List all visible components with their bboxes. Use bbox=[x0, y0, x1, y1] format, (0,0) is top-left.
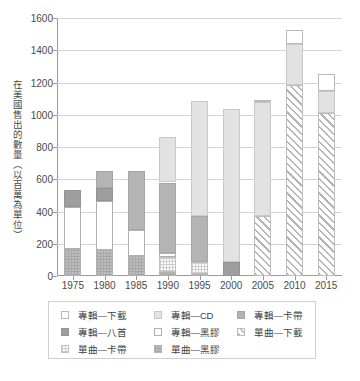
bar-1975 bbox=[64, 190, 81, 276]
x-axis-tick-label: 2010 bbox=[283, 280, 305, 291]
bar-segment-alb-cas bbox=[159, 183, 176, 254]
bar-2005 bbox=[254, 100, 271, 276]
legend-item-alb-cas[interactable]: 專輯—卡帶 bbox=[237, 308, 303, 322]
legend-swatch-alb-vin-icon bbox=[154, 328, 162, 336]
y-axis-tick-label: 1400 bbox=[31, 45, 53, 56]
y-axis-title: 在美國售出的數量（以百萬為單位） bbox=[0, 52, 22, 267]
x-axis-tick-label: 1985 bbox=[125, 280, 147, 291]
legend-label: 專輯—八首 bbox=[78, 325, 127, 339]
bar-segment-alb-cd bbox=[318, 91, 335, 113]
x-axis-tick-label: 1980 bbox=[93, 280, 115, 291]
legend-swatch-sng-cas-icon bbox=[61, 345, 69, 353]
x-axis-tick-label: 1990 bbox=[157, 280, 179, 291]
legend-item-sng-vin[interactable]: 單曲—黑膠 bbox=[154, 342, 220, 356]
y-axis-tick-label: 600 bbox=[36, 174, 53, 185]
legend-swatch-alb-8tr-icon bbox=[61, 328, 69, 336]
legend-item-alb-8tr[interactable]: 專輯—八首 bbox=[61, 325, 127, 339]
y-axis-tick-label: 400 bbox=[36, 206, 53, 217]
legend-swatch-alb-cd-icon bbox=[154, 311, 162, 319]
plot-area: 0200400600800100012001400160019751980198… bbox=[57, 18, 342, 276]
bar-segment-alb-8tr bbox=[64, 190, 81, 208]
y-axis-tick-mark bbox=[53, 115, 57, 116]
legend-row: 單曲—卡帶單曲—黑膠 bbox=[51, 340, 313, 357]
bar-segment-alb-vin bbox=[96, 201, 113, 250]
legend-label: 單曲—下載 bbox=[254, 325, 303, 339]
legend-swatch-sng-vin-icon bbox=[154, 345, 162, 353]
y-axis-tick-mark bbox=[53, 244, 57, 245]
bar-segment-alb-8tr bbox=[223, 262, 240, 277]
legend-item-alb-vin[interactable]: 專輯—黑膠 bbox=[154, 325, 220, 339]
bar-segment-sng-vin bbox=[96, 250, 113, 276]
y-axis-tick-label: 1000 bbox=[31, 109, 53, 120]
y-axis-tick-label: 200 bbox=[36, 238, 53, 249]
bar-segment-alb-dl bbox=[318, 74, 335, 91]
bar-1995 bbox=[191, 101, 208, 276]
bar-1985 bbox=[128, 171, 145, 276]
y-axis-tick-mark bbox=[53, 50, 57, 51]
bar-segment-sng-cas bbox=[159, 257, 176, 272]
bar-segment-sng-dl bbox=[254, 216, 271, 276]
y-axis-tick-mark bbox=[53, 276, 57, 277]
bar-segment-sng-cas bbox=[191, 262, 208, 274]
legend-label: 專輯—下載 bbox=[78, 308, 127, 322]
legend-item-sng-dl[interactable]: 單曲—下載 bbox=[237, 325, 303, 339]
bar-segment-alb-8tr bbox=[96, 188, 113, 201]
bar-segment-alb-cd bbox=[191, 101, 208, 216]
y-axis-tick-mark bbox=[53, 179, 57, 180]
legend-label: 專輯—黑膠 bbox=[171, 325, 220, 339]
legend-row: 專輯—下載專輯—CD專輯—卡帶 bbox=[51, 306, 313, 323]
bar-segment-alb-cd bbox=[159, 137, 176, 183]
bar-2010 bbox=[286, 30, 303, 276]
bar-segment-alb-dl bbox=[254, 100, 271, 102]
bar-segment-alb-vin bbox=[64, 207, 81, 249]
legend-item-alb-dl[interactable]: 專輯—下載 bbox=[61, 308, 127, 322]
bar-segment-alb-cd bbox=[286, 44, 303, 85]
bar-segment-sng-dl bbox=[318, 113, 335, 276]
bar-segment-sng-dl bbox=[286, 85, 303, 276]
legend-row: 專輯—八首專輯—黑膠單曲—下載 bbox=[51, 323, 313, 340]
y-axis-tick-label: 800 bbox=[36, 142, 53, 153]
y-axis-tick-mark bbox=[53, 212, 57, 213]
bar-1980 bbox=[96, 171, 113, 276]
x-axis-tick-label: 2005 bbox=[252, 280, 274, 291]
y-axis-tick-mark bbox=[53, 18, 57, 19]
legend-swatch-sng-dl-icon bbox=[237, 328, 245, 336]
bar-segment-alb-cd bbox=[223, 109, 240, 261]
bar-segment-alb-vin bbox=[159, 253, 176, 256]
x-axis-tick-label: 2000 bbox=[220, 280, 242, 291]
chart-legend: 專輯—下載專輯—CD專輯—卡帶專輯—八首專輯—黑膠單曲—下載單曲—卡帶單曲—黑膠 bbox=[48, 301, 316, 359]
gridline bbox=[57, 18, 342, 19]
y-axis-tick-mark bbox=[53, 83, 57, 84]
bar-2015 bbox=[318, 74, 335, 276]
bar-segment-alb-vin bbox=[128, 230, 145, 256]
bar-2000 bbox=[223, 109, 240, 276]
bar-segment-sng-vin bbox=[128, 256, 145, 276]
bar-segment-alb-cas bbox=[128, 171, 145, 230]
legend-label: 專輯—卡帶 bbox=[254, 308, 303, 322]
legend-item-sng-cas[interactable]: 單曲—卡帶 bbox=[61, 342, 127, 356]
legend-label: 專輯—CD bbox=[171, 308, 213, 322]
legend-swatch-alb-dl-icon bbox=[61, 311, 69, 319]
x-axis-tick-label: 1995 bbox=[188, 280, 210, 291]
chart-root: 在美國售出的數量（以百萬為單位） 02004006008001000120014… bbox=[0, 0, 360, 381]
bar-segment-sng-vin bbox=[64, 249, 81, 276]
legend-label: 單曲—黑膠 bbox=[171, 342, 220, 356]
legend-label: 單曲—卡帶 bbox=[78, 342, 127, 356]
y-axis-tick-label: 1600 bbox=[31, 13, 53, 24]
bar-segment-alb-cd bbox=[254, 102, 271, 216]
bar-segment-alb-cas bbox=[191, 216, 208, 262]
y-axis-tick-mark bbox=[53, 147, 57, 148]
bar-1990 bbox=[159, 137, 176, 276]
legend-swatch-alb-cas-icon bbox=[237, 311, 245, 319]
y-axis-tick-label: 1200 bbox=[31, 77, 53, 88]
bar-segment-alb-dl bbox=[286, 30, 303, 44]
bar-segment-alb-cas bbox=[96, 171, 113, 188]
x-axis-tick-label: 2015 bbox=[315, 280, 337, 291]
legend-item-alb-cd[interactable]: 專輯—CD bbox=[154, 308, 213, 322]
x-axis-tick-label: 1975 bbox=[62, 280, 84, 291]
